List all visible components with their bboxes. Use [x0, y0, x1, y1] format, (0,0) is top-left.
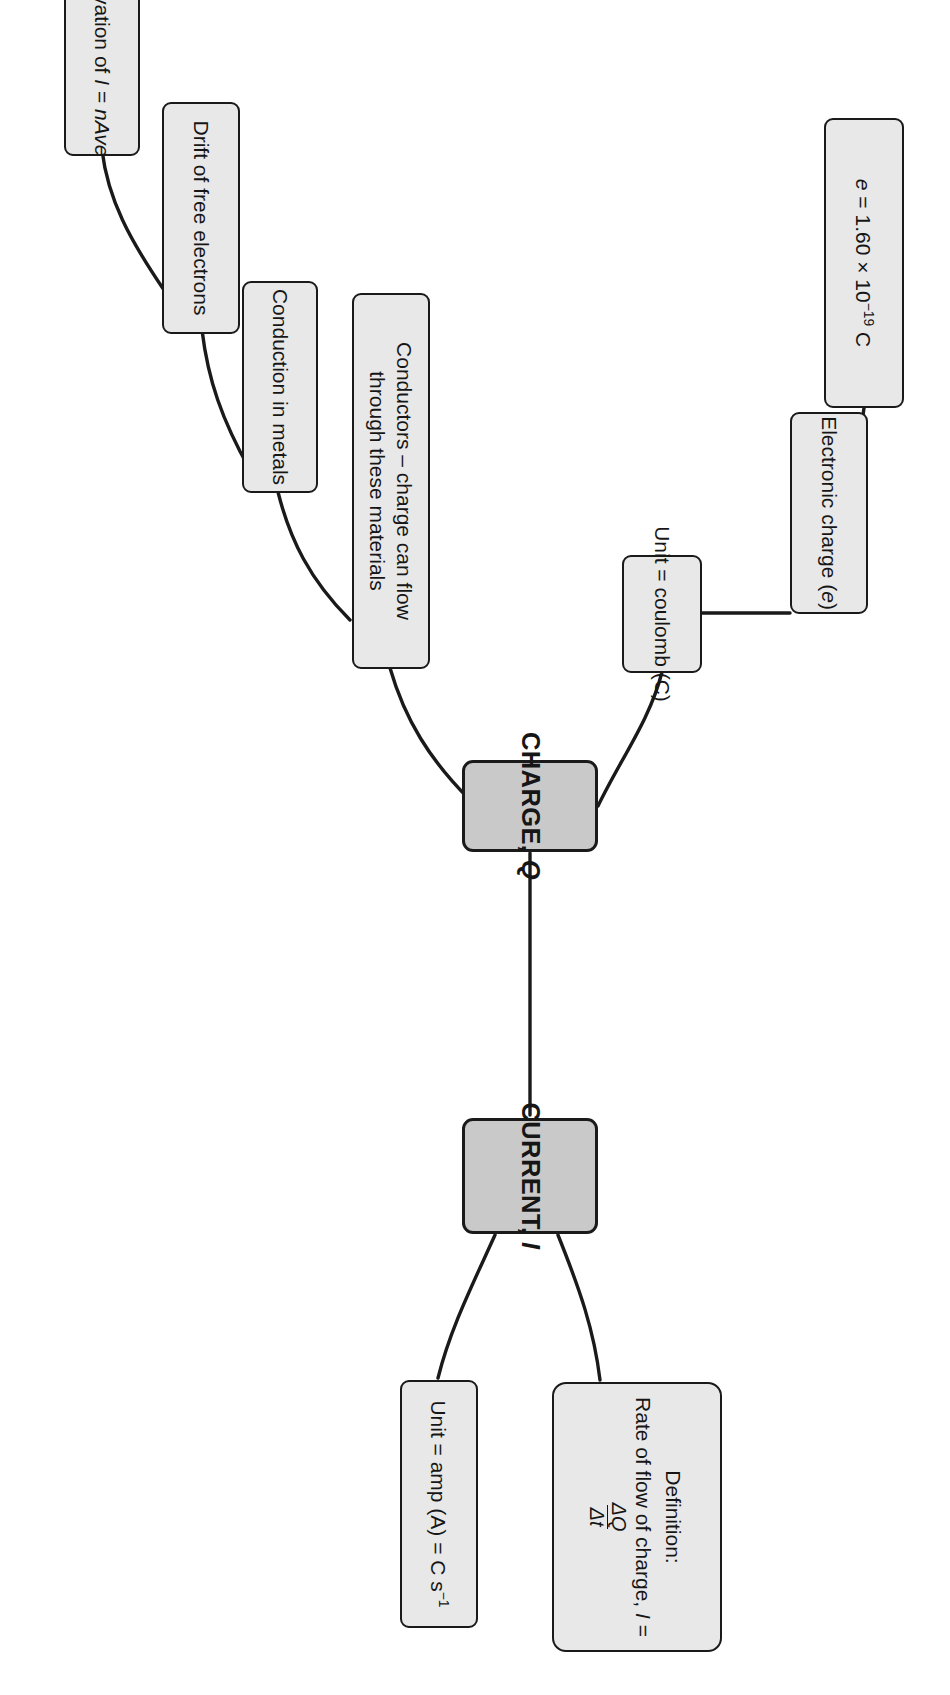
node-electronic-charge-value[interactable]: e = 1.60 × 10−19 C	[824, 118, 904, 408]
node-conductors[interactable]: Conductors – charge can flow through the…	[352, 293, 430, 669]
node-current[interactable]: CURRENT, I	[462, 1118, 598, 1234]
link-current-unit-amp	[438, 1235, 495, 1378]
node-electronic-charge-label: Electronic charge (e)	[816, 416, 842, 610]
node-definition-label: Definition: Rate of flow of charge, I = …	[587, 1393, 686, 1641]
link-charge-conductors	[390, 668, 470, 800]
node-definition[interactable]: Definition: Rate of flow of charge, I = …	[552, 1382, 722, 1652]
link-conductors-conduction	[278, 492, 350, 620]
node-unit-amp-label: Unit = amp (A) = C s−1	[426, 1400, 453, 1607]
node-drift-of-free-electrons-label: Drift of free electrons	[188, 121, 214, 316]
node-conduction-in-metals-label: Conduction in metals	[267, 289, 293, 485]
link-drift-derivation	[102, 150, 164, 290]
node-current-label: CURRENT, I	[514, 1102, 545, 1249]
node-unit-coulomb-label: Unit = coulomb (C)	[649, 526, 675, 702]
node-electronic-charge-value-label: e = 1.60 × 10−19 C	[851, 179, 878, 347]
node-electronic-charge[interactable]: Electronic charge (e)	[790, 412, 868, 614]
node-unit-amp[interactable]: Unit = amp (A) = C s−1	[400, 1380, 478, 1628]
concept-map-canvas: CHARGE, Q CURRENT, I Unit = coulomb (C) …	[0, 0, 950, 1695]
node-conduction-in-metals[interactable]: Conduction in metals	[242, 281, 318, 493]
node-derivation[interactable]: Derivation of I = nAve	[64, 0, 140, 156]
node-charge-label: CHARGE, Q	[514, 732, 545, 880]
node-drift-of-free-electrons[interactable]: Drift of free electrons	[162, 102, 240, 334]
node-charge[interactable]: CHARGE, Q	[462, 760, 598, 852]
node-unit-coulomb[interactable]: Unit = coulomb (C)	[622, 555, 702, 673]
node-derivation-label: Derivation of I = nAve	[89, 0, 115, 157]
link-current-definition	[558, 1235, 600, 1380]
node-conductors-label: Conductors – charge can flow through the…	[364, 304, 419, 658]
